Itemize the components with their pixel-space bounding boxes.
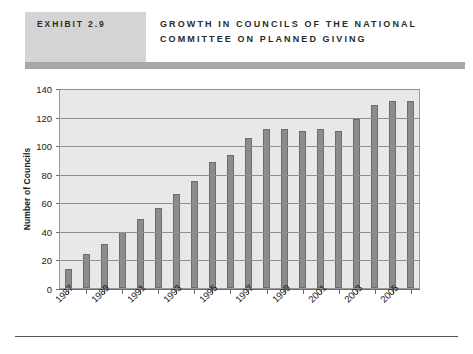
bar-cell [78, 90, 96, 288]
gridline [60, 89, 419, 90]
gridline [60, 118, 419, 119]
bar-1995 [209, 162, 216, 288]
bar-1994 [191, 181, 198, 288]
x-axis-tick-label: 1987 [53, 282, 76, 305]
gridline [60, 146, 419, 147]
bar-cell [222, 90, 240, 288]
bar-1992 [155, 208, 162, 288]
x-axis-label-cell: 1999 [276, 294, 294, 334]
x-axis-label-cell: 1997 [239, 294, 257, 334]
y-axis-tick-label: 40 [41, 226, 52, 237]
bar-cell [204, 90, 222, 288]
y-axis-ticks: 020406080100120140 [28, 89, 56, 289]
bar-chart: Number of Councils 020406080100120140 19… [0, 72, 473, 327]
y-axis-tick-label: 80 [41, 169, 52, 180]
bar-cell [293, 90, 311, 288]
plot-area [59, 89, 420, 289]
bar-cell [365, 90, 383, 288]
bar-2001 [317, 129, 324, 288]
y-axis-tick-label: 20 [41, 255, 52, 266]
bar-cell [60, 90, 78, 288]
header-divider [25, 62, 465, 69]
bar-cell [132, 90, 150, 288]
x-axis-label-cell: 2005 [384, 294, 402, 334]
bar-cell [168, 90, 186, 288]
bar-cell [186, 90, 204, 288]
y-axis-tick-label: 0 [47, 284, 52, 295]
bar-1991 [137, 219, 144, 288]
bar-cell [347, 90, 365, 288]
x-axis-label-cell [402, 294, 420, 334]
gridline [60, 260, 419, 261]
bar-cell [311, 90, 329, 288]
x-axis-labels: 1987198919911993199519971999200120032005 [59, 294, 420, 334]
x-axis-label-cell: 1989 [95, 294, 113, 334]
x-axis-label-cell: 2001 [312, 294, 330, 334]
bar-cell [257, 90, 275, 288]
bar-cell [329, 90, 347, 288]
bar-1998 [263, 129, 270, 288]
footer-divider [15, 336, 458, 337]
bar-cell [275, 90, 293, 288]
y-axis-tick-label: 140 [36, 84, 52, 95]
gridline [60, 175, 419, 176]
bar-cell [383, 90, 401, 288]
exhibit-number-label: EXHIBIT 2.9 [37, 19, 106, 29]
x-axis-label-cell: 2003 [348, 294, 366, 334]
bar-cell [114, 90, 132, 288]
bar-1988 [83, 254, 90, 288]
y-axis-tick-label: 120 [36, 112, 52, 123]
bar-cell [401, 90, 419, 288]
y-axis-tick-label: 60 [41, 198, 52, 209]
bar-1993 [173, 194, 180, 288]
exhibit-title: GROWTH IN COUNCILS OF THE NATIONAL COMMI… [160, 17, 460, 47]
bar-1989 [101, 244, 108, 288]
gridline [60, 232, 419, 233]
bar-1997 [245, 138, 252, 288]
exhibit-header: EXHIBIT 2.9 GROWTH IN COUNCILS OF THE NA… [0, 0, 473, 70]
bar-cell [96, 90, 114, 288]
x-axis-label-cell: 1991 [131, 294, 149, 334]
bar-2000 [299, 131, 306, 288]
y-axis-tick-label: 100 [36, 141, 52, 152]
bar-1999 [281, 129, 288, 288]
x-axis-label-cell: 1987 [59, 294, 77, 334]
bar-cell [150, 90, 168, 288]
x-axis-label-cell: 1993 [167, 294, 185, 334]
bar-cell [240, 90, 258, 288]
gridline [60, 203, 419, 204]
x-axis-label-cell: 1995 [203, 294, 221, 334]
bar-2002 [335, 131, 342, 288]
bar-series [60, 90, 419, 288]
